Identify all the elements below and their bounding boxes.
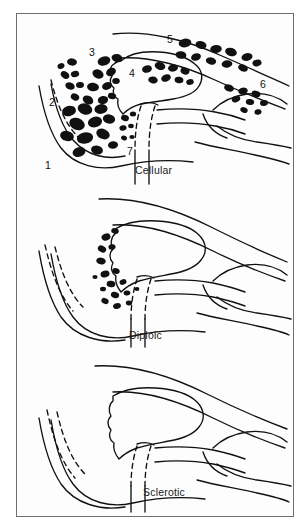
air-cell-cluster-7 — [119, 112, 136, 142]
cellular-anatomy-drawing — [17, 14, 295, 189]
label-4: 4 — [129, 68, 135, 79]
panel-caption-sclerotic: Sclerotic — [143, 486, 185, 498]
air-cell-cluster-4 — [141, 61, 194, 86]
air-cell-cluster-2 — [57, 58, 85, 102]
panel-diploic: Diploic — [17, 189, 295, 354]
label-5: 5 — [167, 34, 173, 45]
panel-caption-cellular: Cellular — [135, 164, 172, 176]
figure-frame: 1 2 3 4 5 6 7 Cellular — [16, 13, 294, 517]
label-3: 3 — [89, 47, 95, 58]
label-1: 1 — [45, 160, 51, 171]
label-6: 6 — [260, 79, 266, 90]
figure-root: 1 2 3 4 5 6 7 Cellular — [0, 0, 308, 531]
panel-caption-diploic: Diploic — [129, 329, 162, 341]
label-7: 7 — [127, 146, 133, 157]
air-cell-cluster-1 — [59, 102, 118, 159]
panel-sclerotic: Sclerotic — [17, 354, 295, 518]
panel-cellular: 1 2 3 4 5 6 7 Cellular — [17, 14, 295, 189]
label-2: 2 — [49, 97, 55, 108]
